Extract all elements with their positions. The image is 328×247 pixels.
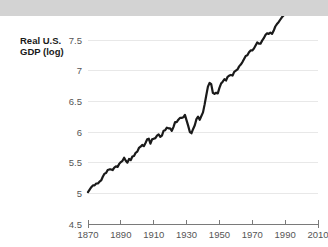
y-tick-label: 7.5 xyxy=(69,35,82,46)
x-axis-tick-labels: 18701890191019301950197019902010 xyxy=(77,229,328,240)
y-axis-title-line: GDP (log) xyxy=(20,46,64,57)
y-tick-label: 6 xyxy=(77,127,82,138)
x-tick-label: 2010 xyxy=(307,229,328,240)
x-tick-label: 1930 xyxy=(176,229,197,240)
gdp-series-line xyxy=(88,16,318,192)
x-tick-label: 1870 xyxy=(77,229,98,240)
top-gray-band xyxy=(0,0,328,16)
x-tick-label: 1890 xyxy=(110,229,131,240)
y-tick-label: 5 xyxy=(77,188,82,199)
data-series xyxy=(88,16,318,192)
y-axis-title-line: Real U.S. xyxy=(20,35,61,46)
x-tick-label: 1910 xyxy=(143,229,164,240)
gridlines xyxy=(88,40,318,193)
chart-screenshot: 7.576.565.554.5 187018901910193019501970… xyxy=(0,0,328,247)
chart-canvas: 7.576.565.554.5 187018901910193019501970… xyxy=(0,16,328,247)
y-axis-tick-labels: 7.576.565.554.5 xyxy=(69,35,82,230)
y-tick-label: 4.5 xyxy=(69,219,82,230)
y-tick-label: 6.5 xyxy=(69,96,82,107)
y-tick-label: 5.5 xyxy=(69,157,82,168)
gdp-line-chart: 7.576.565.554.5 187018901910193019501970… xyxy=(0,16,328,247)
axes xyxy=(88,220,318,228)
y-tick-label: 7 xyxy=(77,65,82,76)
x-tick-label: 1950 xyxy=(209,229,230,240)
x-tick-label: 1970 xyxy=(242,229,263,240)
y-axis-title: Real U.S.GDP (log) xyxy=(20,35,64,57)
x-tick-label: 1990 xyxy=(275,229,296,240)
